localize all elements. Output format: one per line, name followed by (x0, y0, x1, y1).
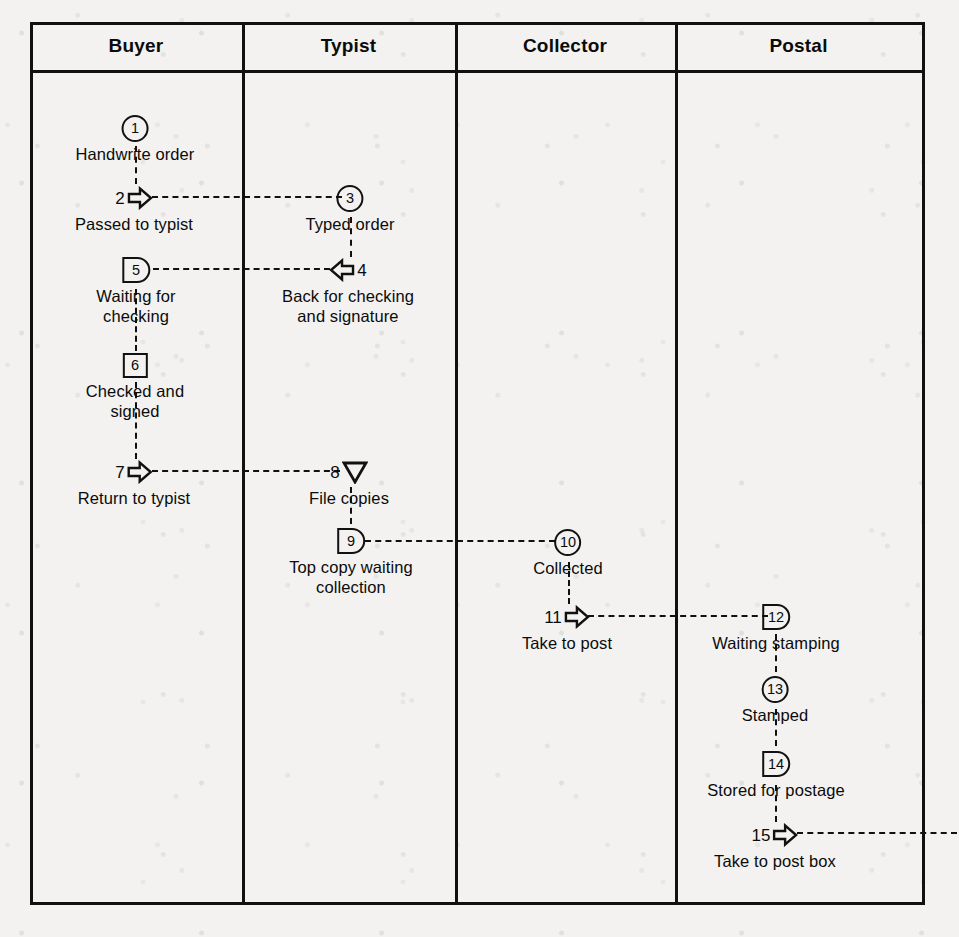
step-8-caption: File copies (309, 488, 389, 508)
step-3-line-1: Typed order (305, 214, 394, 234)
lane-header-postal: Postal (675, 34, 922, 58)
step-2[interactable]: 2 Passed to typist (75, 183, 193, 234)
step-10-line-1: Collected (533, 558, 603, 578)
step-9[interactable]: 9 Top copy waiting collection (289, 526, 413, 597)
step-10-caption: Collected (533, 558, 603, 578)
transport-right-arrow-icon (564, 605, 590, 629)
lane-header-collector: Collector (455, 34, 675, 58)
step-7-number: 7 (115, 464, 124, 481)
delay-d-icon: 5 (122, 257, 150, 283)
step-7-line-1: Return to typist (78, 488, 191, 508)
step-1-line-1: Handwrite order (76, 144, 195, 164)
step-11-symbol-row: 11 (522, 602, 612, 632)
step-15[interactable]: 15 Take to post box (714, 820, 836, 871)
step-4-line-1: Back for checking (282, 286, 414, 306)
transport-right-arrow-icon (127, 186, 153, 210)
step-6-caption: Checked and signed (86, 381, 184, 421)
step-14-caption: Stored for postage (707, 780, 845, 800)
step-13-caption: Stamped (742, 705, 809, 725)
step-9-line-1: Top copy waiting (289, 557, 413, 577)
step-14[interactable]: 14 Stored for postage (707, 749, 845, 800)
step-7-symbol-row: 7 (78, 457, 191, 487)
transport-right-arrow-icon (127, 460, 153, 484)
step-14-symbol-row: 14 (707, 749, 845, 779)
step-6-line-2: signed (86, 401, 184, 421)
operation-circle-icon: 10 (554, 529, 581, 556)
step-12[interactable]: 12 Waiting stamping (712, 602, 840, 653)
step-1[interactable]: 1 Handwrite order (76, 113, 195, 164)
step-4[interactable]: 4 Back for checking and signature (282, 255, 414, 326)
lane-header-buyer: Buyer (30, 34, 242, 58)
step-4-symbol-row: 4 (282, 255, 414, 285)
step-5-line-2: checking (96, 306, 175, 326)
step-5-line-1: Waiting for (96, 286, 175, 306)
flow-process-chart: Buyer Typist Collector Postal 1 Handwrit… (0, 0, 959, 937)
table-border-top (30, 22, 925, 25)
step-2-symbol-row: 2 (75, 183, 193, 213)
step-12-line-1: Waiting stamping (712, 633, 840, 653)
step-11-line-1: Take to post (522, 633, 612, 653)
step-15-caption: Take to post box (714, 851, 836, 871)
step-14-line-1: Stored for postage (707, 780, 845, 800)
table-border-bottom (30, 902, 925, 905)
step-9-caption: Top copy waiting collection (289, 557, 413, 597)
step-5-symbol-row: 5 (96, 255, 175, 285)
operation-circle-icon: 13 (762, 676, 789, 703)
table-border-right (922, 22, 925, 905)
step-6-line-1: Checked and (86, 381, 184, 401)
step-3[interactable]: 3 Typed order (305, 183, 394, 234)
step-2-number: 2 (115, 190, 124, 207)
operation-circle-icon: 3 (337, 185, 364, 212)
step-11-number: 11 (544, 609, 562, 626)
delay-d-icon: 12 (762, 604, 790, 630)
step-9-symbol-row: 9 (289, 526, 413, 556)
lane-divider-2 (455, 22, 458, 905)
step-8-number: 8 (330, 464, 339, 481)
step-11[interactable]: 11 Take to post (522, 602, 612, 653)
transport-left-arrow-icon (329, 258, 355, 282)
step-11-caption: Take to post (522, 633, 612, 653)
transport-right-arrow-icon (772, 823, 798, 847)
step-6[interactable]: 6 Checked and signed (86, 350, 184, 421)
step-8-symbol-row: 8 (309, 457, 389, 487)
step-7[interactable]: 7 Return to typist (78, 457, 191, 508)
step-5-caption: Waiting for checking (96, 286, 175, 326)
lane-divider-1 (242, 22, 245, 905)
storage-triangle-icon (342, 460, 368, 484)
step-1-symbol-row: 1 (76, 113, 195, 143)
step-3-caption: Typed order (305, 214, 394, 234)
step-8[interactable]: 8 File copies (309, 457, 389, 508)
step-15-line-1: Take to post box (714, 851, 836, 871)
inspection-square-icon: 6 (123, 353, 148, 378)
step-13-line-1: Stamped (742, 705, 809, 725)
step-12-caption: Waiting stamping (712, 633, 840, 653)
step-2-line-1: Passed to typist (75, 214, 193, 234)
step-4-number: 4 (357, 262, 366, 279)
step-6-symbol-row: 6 (86, 350, 184, 380)
operation-circle-icon: 1 (121, 115, 148, 142)
step-13[interactable]: 13 Stamped (742, 674, 809, 725)
step-9-line-2: collection (289, 577, 413, 597)
step-7-caption: Return to typist (78, 488, 191, 508)
header-rule (30, 70, 925, 73)
step-15-symbol-row: 15 (714, 820, 836, 850)
step-15-number: 15 (752, 827, 771, 844)
lane-header-typist: Typist (242, 34, 455, 58)
step-12-symbol-row: 12 (712, 602, 840, 632)
step-8-line-1: File copies (309, 488, 389, 508)
table-border-left (30, 22, 33, 905)
step-1-caption: Handwrite order (76, 144, 195, 164)
delay-d-icon: 14 (762, 751, 790, 777)
step-4-line-2: and signature (282, 306, 414, 326)
step-4-caption: Back for checking and signature (282, 286, 414, 326)
step-13-symbol-row: 13 (742, 674, 809, 704)
step-5[interactable]: 5 Waiting for checking (96, 255, 175, 326)
delay-d-icon: 9 (337, 528, 365, 554)
step-3-symbol-row: 3 (305, 183, 394, 213)
step-10-symbol-row: 10 (533, 527, 603, 557)
step-2-caption: Passed to typist (75, 214, 193, 234)
lane-divider-3 (675, 22, 678, 905)
step-10[interactable]: 10 Collected (533, 527, 603, 578)
